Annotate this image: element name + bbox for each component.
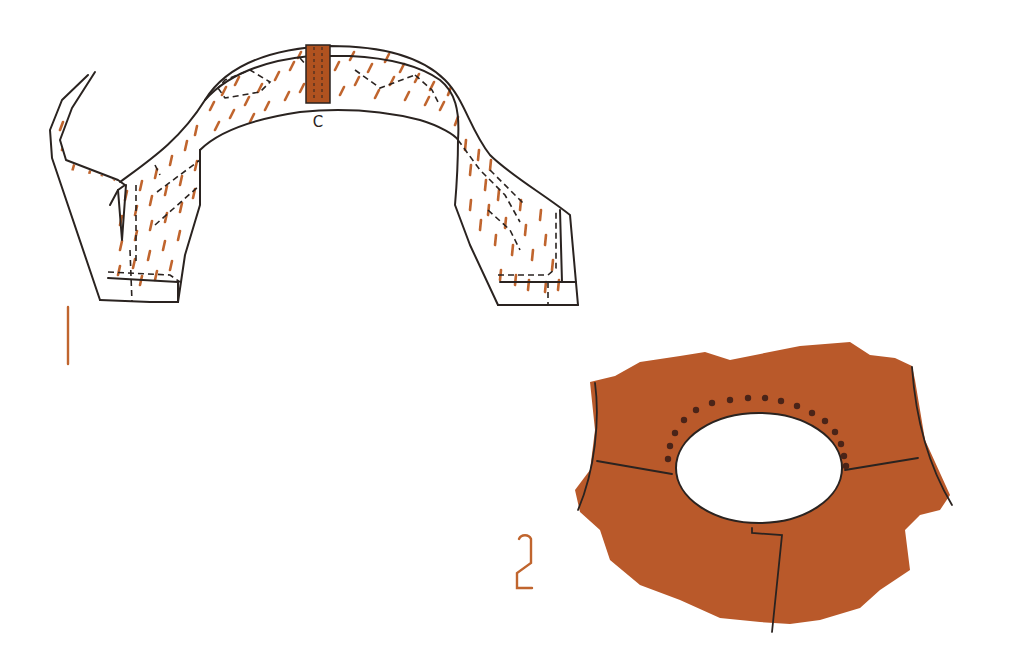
sewing-diagram: C — [0, 0, 1011, 666]
figure-2-finished-collar — [575, 342, 952, 632]
center-mark-label: C — [313, 113, 323, 131]
basting-lines — [108, 58, 556, 305]
figure-1-collar-piece: C — [50, 45, 578, 305]
center-back-tape — [306, 45, 330, 103]
neck-opening — [676, 413, 842, 523]
figure-2-number — [517, 535, 532, 588]
